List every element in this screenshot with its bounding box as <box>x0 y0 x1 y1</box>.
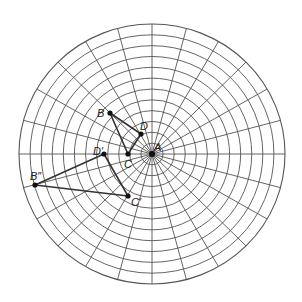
grid-spoke-120 <box>86 41 153 154</box>
grid-spoke-30 <box>152 89 267 154</box>
grid-spoke-45 <box>152 62 246 154</box>
polar-grid-diagram: ABDCD′B″C′ <box>0 0 302 302</box>
triangles <box>35 113 141 196</box>
grid-spoke-315 <box>152 154 246 246</box>
label-C: C <box>124 158 132 170</box>
grid-spoke-330 <box>152 154 267 219</box>
grid-spoke-300 <box>152 154 219 267</box>
label-D: D <box>140 120 148 132</box>
point-C <box>125 151 130 156</box>
grid-spoke-240 <box>86 154 153 267</box>
point-B2 <box>32 182 37 187</box>
point-C1 <box>125 193 130 198</box>
label-D1: D′ <box>93 145 104 157</box>
point-B <box>107 110 112 115</box>
label-B: B <box>97 107 104 119</box>
label-A: A <box>153 141 161 153</box>
label-C1: C′ <box>131 196 142 208</box>
grid-spoke-60 <box>152 41 219 154</box>
label-B2: B″ <box>30 170 42 182</box>
point-D <box>138 131 143 136</box>
